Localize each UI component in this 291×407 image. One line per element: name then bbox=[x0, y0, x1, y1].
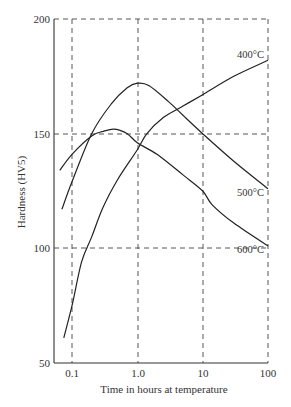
y-tick-200: 200 bbox=[34, 13, 51, 25]
x-tick-100: 100 bbox=[260, 367, 277, 379]
y-tick-100: 100 bbox=[34, 242, 51, 254]
y-axis-title: Hardness (HV5) bbox=[15, 155, 28, 228]
axes bbox=[54, 19, 268, 363]
hardness-chart: 200 150 100 50 0.1 1.0 10 100 Time in ho… bbox=[0, 0, 291, 407]
grid bbox=[54, 19, 268, 363]
series-label-400: 400°C bbox=[237, 49, 264, 60]
series-label-500: 500°C bbox=[237, 187, 264, 198]
curve-400 bbox=[64, 60, 268, 338]
x-tick-0.1: 0.1 bbox=[65, 367, 79, 379]
curves bbox=[60, 60, 268, 338]
x-tick-10: 10 bbox=[198, 367, 210, 379]
x-tick-1: 1.0 bbox=[131, 367, 145, 379]
y-tick-150: 150 bbox=[34, 128, 51, 140]
y-tick-50: 50 bbox=[39, 357, 51, 369]
series-label-600: 600°C bbox=[237, 244, 264, 255]
x-axis-title: Time in hours at temperature bbox=[100, 383, 227, 395]
